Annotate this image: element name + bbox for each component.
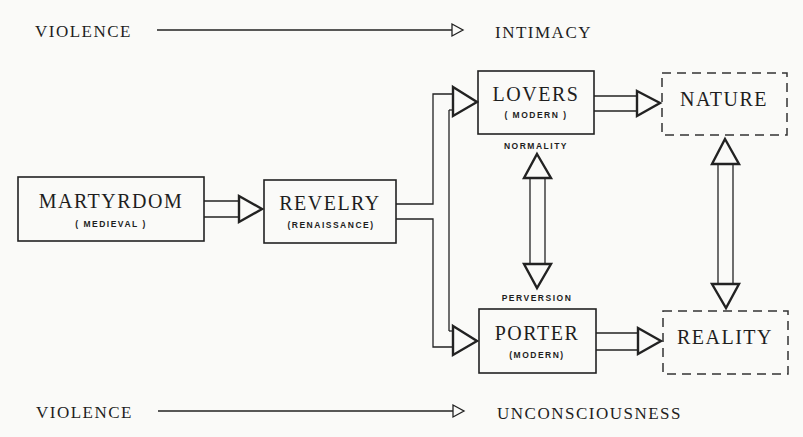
arrowhead-down-icon bbox=[712, 284, 739, 308]
node-martyrdom: MARTYRDOM ( MEDIEVAL ) bbox=[18, 177, 204, 241]
martyrdom-label: MARTYRDOM bbox=[39, 190, 184, 212]
top-violence-label: VIOLENCE bbox=[35, 22, 132, 41]
top-axis-arrowhead-icon bbox=[452, 24, 463, 36]
node-reality: REALITY bbox=[663, 311, 788, 374]
arrow-lovers-nature bbox=[594, 91, 660, 116]
nature-label: NATURE bbox=[680, 88, 768, 110]
top-intimacy-label: INTIMACY bbox=[495, 23, 592, 42]
node-nature: NATURE bbox=[662, 73, 787, 135]
arrowhead-icon bbox=[638, 328, 661, 354]
normality-label: NORMALITY bbox=[504, 141, 568, 151]
bottom-axis-arrowhead-icon bbox=[453, 405, 464, 417]
revelry-sublabel: (RENAISSANCE) bbox=[287, 220, 374, 230]
lovers-sublabel: ( MODERN ) bbox=[504, 110, 567, 120]
reality-label: REALITY bbox=[677, 326, 773, 348]
diagram-canvas: VIOLENCE INTIMACY MARTYRDOM ( MEDIEVAL )… bbox=[0, 0, 803, 437]
arrow-nature-reality bbox=[712, 139, 739, 308]
arrowhead-up-icon bbox=[524, 154, 551, 178]
perversion-label: PERVERSION bbox=[502, 293, 573, 303]
top-axis: VIOLENCE INTIMACY bbox=[35, 22, 592, 42]
arrowhead-porter-icon bbox=[453, 326, 477, 355]
node-lovers: LOVERS ( MODERN ) bbox=[478, 71, 594, 134]
arrowhead-lovers-icon bbox=[453, 87, 477, 116]
arrowhead-icon bbox=[239, 196, 262, 222]
arrowhead-up-icon bbox=[712, 139, 739, 164]
branch-connector bbox=[396, 87, 477, 355]
porter-sublabel: (MODERN) bbox=[509, 350, 564, 360]
node-revelry: REVELRY (RENAISSANCE) bbox=[264, 180, 396, 243]
arrowhead-down-icon bbox=[524, 264, 551, 288]
lovers-label: LOVERS bbox=[493, 83, 580, 105]
porter-label: PORTER bbox=[495, 322, 579, 344]
martyrdom-sublabel: ( MEDIEVAL ) bbox=[75, 219, 147, 229]
arrow-martyrdom-revelry bbox=[204, 196, 262, 222]
revelry-label: REVELRY bbox=[279, 192, 381, 214]
arrow-porter-reality bbox=[596, 328, 661, 354]
arrow-normality-perversion: NORMALITY PERVERSION bbox=[502, 141, 573, 303]
node-porter: PORTER (MODERN) bbox=[479, 309, 596, 373]
bottom-axis: VIOLENCE UNCONSCIOUSNESS bbox=[36, 403, 682, 423]
arrowhead-icon bbox=[637, 91, 660, 116]
bottom-violence-label: VIOLENCE bbox=[36, 403, 133, 422]
bottom-unconsciousness-label: UNCONSCIOUSNESS bbox=[497, 404, 682, 423]
